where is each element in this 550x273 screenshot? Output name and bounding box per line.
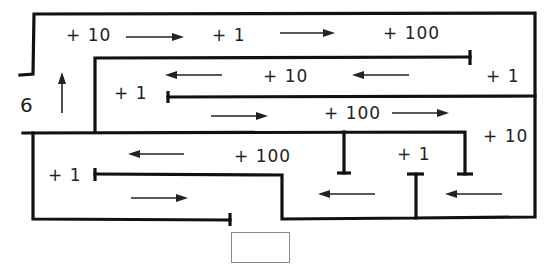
goal-box [231,232,290,263]
reward-label: + 100 [383,23,440,43]
reward-label: + 1 [114,83,147,103]
reward-label: + 1 [48,165,81,185]
reward-label: + 1 [397,144,430,164]
start-label: 6 [20,93,34,117]
reward-label: + 10 [66,25,111,45]
reward-label: + 100 [324,103,381,123]
reward-label: + 1 [212,25,245,45]
reward-label: + 10 [483,126,528,146]
reward-label: + 100 [234,146,291,166]
reward-label: + 10 [263,66,308,86]
reward-label: + 1 [486,66,519,86]
